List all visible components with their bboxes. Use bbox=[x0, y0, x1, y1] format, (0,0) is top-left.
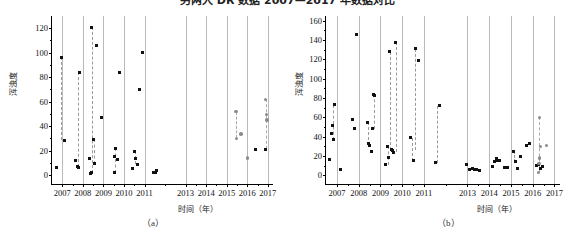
x-axis-title-b: 时间（年） bbox=[477, 203, 517, 214]
x-tick bbox=[554, 184, 555, 187]
x-tick-label: 2008 bbox=[74, 188, 91, 198]
y-tick-minor bbox=[324, 166, 326, 167]
data-point bbox=[409, 136, 412, 139]
x-tick bbox=[83, 184, 84, 187]
data-point bbox=[387, 156, 390, 159]
data-point bbox=[366, 121, 369, 124]
point-connector bbox=[61, 57, 62, 140]
x-tick bbox=[186, 184, 187, 187]
y-tick bbox=[323, 156, 326, 157]
figure-root: 另两大 DR 数据 2007—2017 年数据对比 浑浊度 0204060801… bbox=[0, 0, 575, 241]
data-point bbox=[355, 33, 358, 36]
data-point bbox=[113, 171, 116, 174]
y-tick bbox=[49, 53, 52, 54]
vertical-gridline bbox=[337, 16, 338, 184]
y-tick bbox=[323, 175, 326, 176]
x-tick bbox=[247, 184, 248, 187]
data-point bbox=[339, 168, 342, 171]
y-tick bbox=[323, 117, 326, 118]
x-tick-label: 2015 bbox=[502, 188, 519, 198]
x-tick bbox=[424, 184, 425, 187]
data-point bbox=[77, 166, 80, 169]
data-point bbox=[88, 157, 91, 160]
data-point bbox=[60, 56, 63, 59]
data-point bbox=[516, 167, 519, 170]
x-tick-label: 2014 bbox=[198, 188, 215, 198]
y-tick bbox=[323, 59, 326, 60]
x-tick-label: 2007 bbox=[328, 188, 345, 198]
point-connector bbox=[266, 99, 267, 149]
data-point bbox=[491, 165, 494, 168]
data-point bbox=[541, 165, 544, 168]
data-point bbox=[371, 127, 374, 130]
y-tick-minor bbox=[50, 65, 52, 66]
x-tick-minor bbox=[446, 184, 447, 186]
data-point bbox=[386, 145, 389, 148]
data-point bbox=[63, 139, 66, 142]
vertical-gridline bbox=[145, 16, 146, 184]
data-point bbox=[155, 169, 158, 172]
data-point bbox=[373, 94, 376, 97]
point-connector bbox=[437, 106, 438, 163]
data-point bbox=[538, 156, 541, 159]
data-point bbox=[392, 151, 395, 154]
data-point bbox=[264, 148, 267, 151]
vertical-gridline bbox=[206, 16, 207, 184]
y-tick-label: 120 bbox=[35, 23, 48, 33]
data-point bbox=[141, 51, 144, 54]
y-tick bbox=[323, 79, 326, 80]
y-tick bbox=[49, 126, 52, 127]
data-point bbox=[100, 116, 103, 119]
x-tick-label: 2016 bbox=[239, 188, 256, 198]
vertical-gridline bbox=[489, 16, 490, 184]
data-point bbox=[539, 145, 542, 148]
x-tick-minor bbox=[134, 184, 135, 186]
y-tick-label: 80 bbox=[40, 72, 49, 82]
point-connector bbox=[396, 42, 397, 152]
y-tick bbox=[49, 28, 52, 29]
x-axis-title-a: 时间（年） bbox=[178, 203, 218, 214]
x-tick-label: 2010 bbox=[394, 188, 411, 198]
data-point bbox=[434, 161, 437, 164]
data-point bbox=[478, 169, 481, 172]
data-point bbox=[514, 160, 517, 163]
data-point bbox=[414, 47, 417, 50]
y-tick-minor bbox=[324, 50, 326, 51]
x-tick-minor bbox=[73, 184, 74, 186]
y-tick-minor bbox=[50, 163, 52, 164]
y-tick bbox=[323, 98, 326, 99]
x-tick bbox=[359, 184, 360, 187]
data-point bbox=[239, 132, 242, 135]
y-tick-minor bbox=[50, 89, 52, 90]
chart-panel-b: 浑浊度 020406080100120140160200720082009201… bbox=[287, 0, 575, 241]
y-tick-minor bbox=[324, 127, 326, 128]
vertical-gridline bbox=[533, 16, 534, 184]
y-tick-label: 160 bbox=[309, 16, 322, 26]
x-tick bbox=[337, 184, 338, 187]
vertical-gridline bbox=[227, 16, 228, 184]
y-tick-label: 60 bbox=[40, 97, 49, 107]
subfigure-caption-b: （b） bbox=[437, 216, 460, 229]
data-point bbox=[370, 150, 373, 153]
x-tick-label: 2008 bbox=[350, 188, 367, 198]
data-point bbox=[353, 127, 356, 130]
x-tick bbox=[489, 184, 490, 187]
data-point bbox=[265, 118, 268, 121]
data-point bbox=[512, 150, 515, 153]
x-tick-label: 2016 bbox=[524, 188, 541, 198]
y-tick-minor bbox=[50, 138, 52, 139]
x-tick-label: 2009 bbox=[95, 188, 112, 198]
x-tick-label: 2009 bbox=[372, 188, 389, 198]
data-point bbox=[368, 144, 371, 147]
data-point bbox=[93, 162, 96, 165]
x-tick bbox=[103, 184, 104, 187]
x-tick bbox=[268, 184, 269, 187]
data-point bbox=[116, 158, 119, 161]
x-tick-label: 2015 bbox=[218, 188, 235, 198]
data-point bbox=[537, 171, 540, 174]
x-tick-minor bbox=[93, 184, 94, 186]
vertical-gridline bbox=[83, 16, 84, 184]
x-tick-minor bbox=[522, 184, 523, 186]
data-point bbox=[384, 163, 387, 166]
point-connector bbox=[78, 72, 79, 166]
